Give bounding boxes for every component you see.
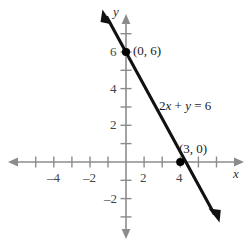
y-axis-top-arrowhead [122, 14, 131, 24]
x-axis-label: x [233, 167, 239, 180]
equation-line [101, 10, 221, 223]
equation-operator: + [171, 98, 185, 113]
line-upper-arrowhead [101, 10, 113, 25]
y-axis-label: y [113, 5, 119, 18]
point-label-3-0: (3, 0) [179, 142, 207, 155]
point-label-0-6: (0, 6) [133, 44, 161, 57]
point-0-6-marker [122, 48, 130, 56]
x-tick-label-neg4: –4 [47, 171, 60, 184]
line-lower-arrowhead [209, 209, 221, 223]
equation-annotation: 2x + y = 6 [159, 99, 211, 112]
x-tick-label-neg2: –2 [83, 171, 96, 184]
equation-result: = 6 [191, 98, 211, 113]
y-tick-label-pos6: 6 [110, 45, 117, 58]
x-axis-left-arrowhead [8, 158, 18, 167]
y-tick-label-pos2: 2 [110, 118, 117, 131]
y-tick-label-pos4: 4 [110, 82, 117, 95]
graph-svg [0, 0, 251, 243]
x-tick-label-pos4: 4 [176, 171, 183, 184]
y-tick-label-neg2: –2 [104, 192, 117, 205]
point-3-0-marker [176, 158, 184, 166]
x-tick-label-pos2: 2 [140, 171, 147, 184]
y-axis-bottom-arrowhead [122, 229, 131, 239]
coordinate-plane-figure: –4 –2 2 4 6 4 2 –2 x y (0, 6) (3, 0) 2x … [0, 0, 251, 243]
